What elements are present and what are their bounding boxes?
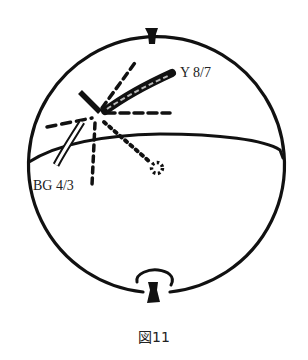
color-sphere-diagram: Y 8/7 BG 4/3: [0, 0, 308, 360]
bottom-pole-knob: [137, 270, 173, 303]
dashed-line-left: [47, 118, 92, 127]
dashed-line-down: [92, 123, 95, 185]
label-y-8-7: Y 8/7: [180, 65, 211, 80]
vector-y-8-7: [105, 73, 172, 111]
axis-stub: [80, 92, 100, 112]
dotted-line-diagonal: [104, 122, 150, 162]
dotted-ring-marker: [152, 163, 163, 174]
label-bg-4-3: BG 4/3: [33, 178, 74, 193]
figure-caption: 図11: [0, 326, 308, 346]
sphere-outline: [29, 37, 285, 292]
